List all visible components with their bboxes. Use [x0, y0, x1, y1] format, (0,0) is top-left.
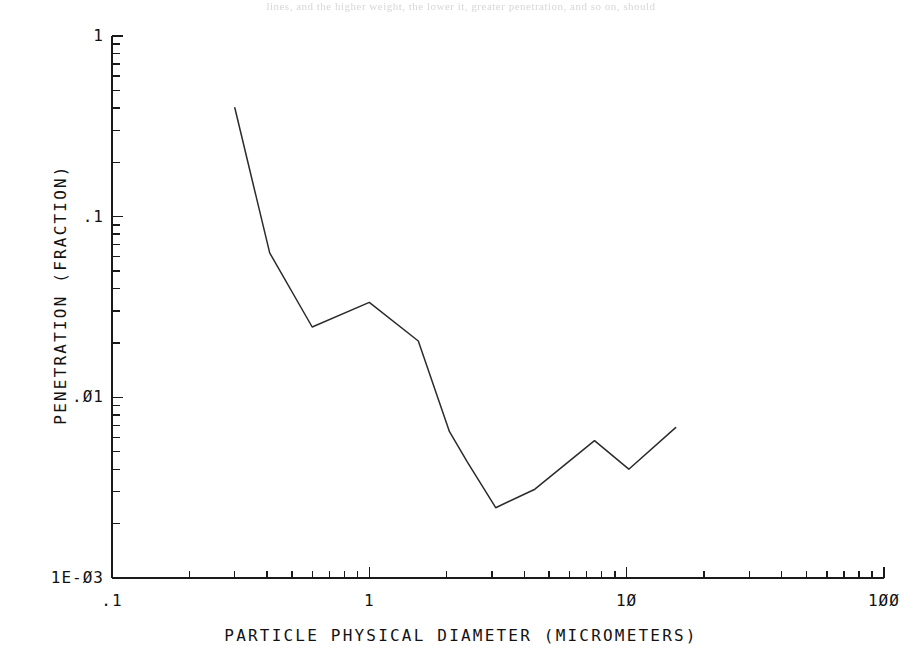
x-tick-label: 1Ø	[577, 591, 677, 610]
x-tick-label: .1	[62, 591, 162, 610]
axis-ticks-group	[112, 36, 884, 578]
y-axis-title: PENETRATION (FRACTION)	[51, 85, 70, 505]
x-tick-label: 1ØØ	[834, 591, 922, 610]
chart-container: lines, and the higher weight, the lower …	[0, 0, 922, 657]
log-log-chart	[0, 0, 922, 657]
y-tick-label: 1	[0, 26, 104, 45]
x-axis-title: PARTICLE PHYSICAL DIAMETER (MICROMETERS)	[0, 626, 922, 645]
x-tick-label: 1	[319, 591, 419, 610]
penetration-series-line	[235, 108, 676, 508]
y-tick-label: 1E-Ø3	[0, 568, 104, 587]
